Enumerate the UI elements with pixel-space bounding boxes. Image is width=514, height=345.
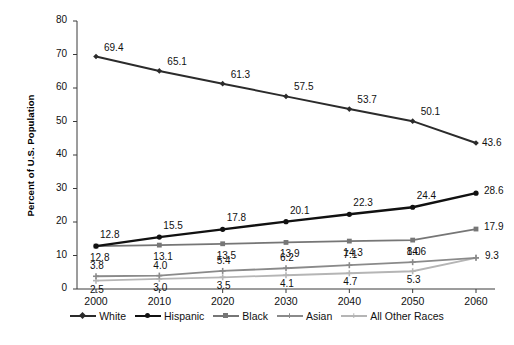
point-label: 5.3 <box>407 274 421 285</box>
legend-item-asian[interactable]: Asian <box>277 311 332 322</box>
point-label: 3.0 <box>153 282 167 293</box>
point-label: 15.5 <box>163 220 182 231</box>
point-label: 53.7 <box>357 94 376 105</box>
y-tick-label: 70 <box>43 48 67 59</box>
legend-label: Black <box>242 311 268 322</box>
legend-item-white[interactable]: White <box>70 311 126 322</box>
y-tick-label: 20 <box>43 215 67 226</box>
point-label: 7.1 <box>343 249 357 260</box>
point-label: 28.6 <box>484 185 503 196</box>
x-tick-label: 2020 <box>193 295 253 307</box>
point-label: 3.5 <box>217 280 231 291</box>
x-tick-label: 2050 <box>383 295 443 307</box>
legend-item-hispanic[interactable]: Hispanic <box>135 311 204 322</box>
legend-item-all-other-races[interactable]: All Other Races <box>341 311 444 322</box>
point-label: 20.1 <box>290 205 309 216</box>
y-axis-ticks <box>73 21 77 289</box>
point-label: 8.0 <box>407 246 421 257</box>
legend-marker-icon <box>341 311 367 321</box>
legend-label: Hispanic <box>164 311 204 322</box>
point-label: 50.1 <box>421 106 440 117</box>
point-label: 43.6 <box>482 137 501 148</box>
x-tick-label: 2060 <box>446 295 506 307</box>
point-label: 6.2 <box>280 252 294 263</box>
point-label: 22.3 <box>353 197 372 208</box>
series-white <box>93 54 479 146</box>
y-tick-label: 40 <box>43 148 67 159</box>
point-label: 69.4 <box>104 42 123 53</box>
legend-label: White <box>99 311 126 322</box>
point-label: 2.5 <box>90 284 104 295</box>
x-tick-label: 2000 <box>66 295 126 307</box>
legend-label: Asian <box>306 311 332 322</box>
point-label: 65.1 <box>167 56 186 67</box>
point-label: 4.0 <box>153 260 167 271</box>
y-tick-label: 30 <box>43 182 67 193</box>
x-tick-label: 2030 <box>256 295 316 307</box>
point-label: 4.7 <box>343 276 357 287</box>
point-label: 61.3 <box>231 69 250 80</box>
legend-marker-icon <box>135 311 161 321</box>
legend-marker-icon <box>213 311 239 321</box>
point-label: 17.9 <box>484 221 503 232</box>
legend-item-black[interactable]: Black <box>213 311 268 322</box>
point-label: 24.4 <box>417 190 436 201</box>
chart-legend: WhiteHispanicBlackAsianAll Other Races <box>0 311 514 322</box>
y-tick-label: 60 <box>43 81 67 92</box>
point-label: 9.3 <box>485 250 499 261</box>
point-label: 4.1 <box>280 278 294 289</box>
legend-marker-icon <box>277 311 303 321</box>
y-tick-label: 50 <box>43 115 67 126</box>
point-label: 12.8 <box>100 229 119 240</box>
chart-container: Percent of U.S. Population 0102030405060… <box>0 0 514 345</box>
y-tick-label: 10 <box>43 249 67 260</box>
y-tick-label: 0 <box>43 282 67 293</box>
x-tick-label: 2040 <box>319 295 379 307</box>
point-label: 5.4 <box>217 255 231 266</box>
point-label: 17.8 <box>227 212 246 223</box>
legend-marker-icon <box>70 311 96 321</box>
x-tick-label: 2010 <box>129 295 189 307</box>
plot-area <box>0 0 514 345</box>
y-tick-label: 80 <box>43 14 67 25</box>
point-label: 3.8 <box>90 260 104 271</box>
legend-label: All Other Races <box>370 311 444 322</box>
point-label: 57.5 <box>294 81 313 92</box>
